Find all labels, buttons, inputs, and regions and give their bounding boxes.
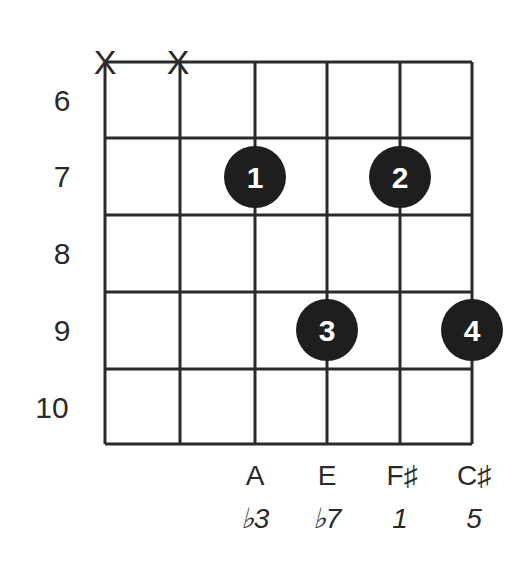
fret-number: 7 (54, 160, 71, 193)
muted-marker-string-1: X (94, 43, 117, 81)
finger-number: 1 (247, 161, 264, 194)
finger-number: 3 (319, 314, 336, 347)
muted-marker-string-2: X (167, 43, 190, 81)
fret-number: 10 (35, 391, 68, 424)
finger-dot-2: 2 (369, 146, 431, 208)
interval-label: ♭3 (241, 503, 270, 534)
note-label: A (246, 460, 265, 491)
finger-dot-3: 3 (296, 299, 358, 361)
finger-dot-4: 4 (441, 299, 503, 361)
note-labels: A E F♯ C♯ (246, 460, 491, 491)
interval-label: 1 (392, 503, 408, 534)
finger-number: 4 (464, 314, 481, 347)
interval-labels: ♭3 ♭7 1 5 (241, 503, 483, 534)
note-label: E (318, 460, 337, 491)
fret-number: 8 (54, 237, 71, 270)
finger-dot-1: 1 (224, 146, 286, 208)
interval-label: ♭7 (313, 503, 343, 534)
note-label: C♯ (457, 460, 491, 491)
finger-number: 2 (392, 161, 409, 194)
chord-diagram: X X 6 7 8 9 10 1 2 3 4 A E F♯ C♯ ♭3 ♭7 1… (0, 0, 527, 566)
note-label: F♯ (386, 460, 417, 491)
fretboard-grid (105, 62, 472, 444)
interval-label: 5 (466, 503, 482, 534)
fret-number: 6 (54, 84, 71, 117)
fret-number: 9 (54, 314, 71, 347)
fret-numbers: 6 7 8 9 10 (35, 84, 70, 424)
